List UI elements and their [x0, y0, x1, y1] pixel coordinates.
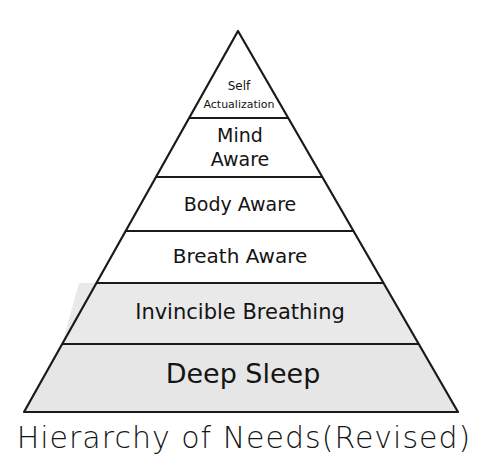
tier-body-aware-label: Body Aware [184, 193, 297, 215]
tier-invincible-breathing-label: Invincible Breathing [135, 300, 345, 324]
tier-mind-aware-label-line2: Aware [211, 148, 270, 170]
tier-self-actualization-label-line1: Self [228, 79, 251, 93]
tier-breath-aware-label: Breath Aware [173, 244, 308, 268]
diagram-caption: Hierarchy of Needs(Revised) [0, 420, 488, 455]
tier-mind-aware-label-line1: Mind [217, 124, 263, 146]
tier-self-actualization-label-line2: Actualization [203, 98, 274, 111]
pyramid-diagram: Self Actualization Mind Aware Body Aware… [0, 0, 488, 476]
tier-deep-sleep-label: Deep Sleep [166, 358, 321, 389]
